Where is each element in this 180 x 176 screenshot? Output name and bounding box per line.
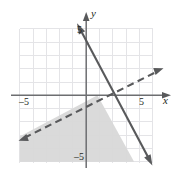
- x-tick-label-pos-five: 5: [139, 97, 144, 107]
- solid-line-arrow-bottom: [144, 154, 152, 165]
- y-tick-label-neg-five: –5: [74, 152, 84, 162]
- dashed-line-arrow-right: [153, 68, 163, 75]
- y-axis-label: y: [91, 8, 96, 19]
- graph-figure: –5 5 5 –5 x y: [0, 0, 180, 176]
- x-tick-label-neg-five: –5: [19, 97, 29, 107]
- coordinate-plane-svg: [0, 0, 180, 176]
- y-axis-arrow: [83, 12, 90, 21]
- y-tick-label-pos-five: 5: [77, 25, 82, 35]
- x-axis-label: x: [163, 95, 168, 106]
